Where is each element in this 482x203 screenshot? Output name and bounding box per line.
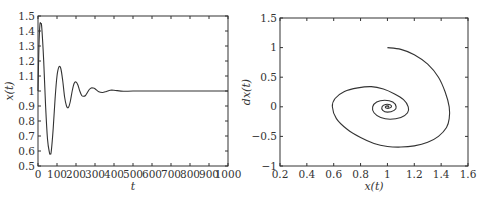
- y-tick-label: −0.5: [252, 130, 278, 142]
- y-tick-label: 0.9: [18, 100, 35, 112]
- x-tick-label: 1000: [215, 168, 242, 180]
- y-tick-label: 0.5: [260, 71, 277, 83]
- left-y-axis-label: x(t): [3, 81, 16, 100]
- y-tick-label: 0.6: [18, 145, 35, 157]
- phase-trajectory-curve: [332, 48, 449, 147]
- x-tick-label: 400: [104, 168, 124, 180]
- x-tick-label: 0.6: [325, 168, 342, 180]
- y-tick-label: 0.5: [18, 160, 35, 172]
- x-tick-label: 200: [66, 168, 86, 180]
- x-tick-label: 700: [161, 168, 181, 180]
- left-x-axis-label: t: [131, 180, 136, 193]
- y-tick-label: 1.1: [18, 70, 35, 82]
- right-x-ticks: 0.20.40.60.811.21.41.6: [272, 18, 477, 180]
- x-t-curve: [38, 23, 228, 155]
- y-tick-label: 1.5: [18, 10, 35, 22]
- x-tick-label: 800: [180, 168, 200, 180]
- y-tick-label: −1: [262, 160, 277, 172]
- y-tick-label: 1.3: [18, 40, 35, 52]
- y-tick-label: 1: [270, 41, 277, 53]
- phase-portrait-panel: 0.20.40.60.811.21.41.6 −1−0.500.511.5 x(…: [240, 12, 477, 194]
- y-tick-label: 0.7: [18, 130, 35, 142]
- y-tick-label: 1.5: [260, 12, 277, 24]
- x-tick-label: 300: [85, 168, 105, 180]
- time-series-panel: 01002003004005006007008009001000 0.50.60…: [3, 10, 241, 194]
- right-y-axis-label: dx(t): [240, 79, 253, 105]
- y-tick-label: 1: [28, 85, 35, 97]
- x-tick-label: 1: [384, 168, 391, 180]
- right-x-axis-label: x(t): [364, 180, 383, 193]
- y-tick-label: 0: [270, 100, 277, 112]
- figure: 01002003004005006007008009001000 0.50.60…: [0, 0, 482, 203]
- x-tick-label: 0.8: [352, 168, 369, 180]
- x-tick-label: 500: [123, 168, 143, 180]
- left-x-ticks: 01002003004005006007008009001000: [35, 16, 242, 180]
- x-tick-label: 600: [142, 168, 162, 180]
- x-tick-label: 100: [47, 168, 67, 180]
- x-tick-label: 1.4: [433, 168, 450, 180]
- y-tick-label: 0.8: [18, 115, 35, 127]
- right-y-ticks: −1−0.500.511.5: [252, 12, 469, 172]
- y-tick-label: 1.2: [18, 55, 35, 67]
- x-tick-label: 0: [35, 168, 42, 180]
- x-tick-label: 0.4: [299, 168, 316, 180]
- x-tick-label: 1.2: [406, 168, 423, 180]
- y-tick-label: 1.4: [18, 25, 35, 37]
- x-tick-label: 1.6: [460, 168, 477, 180]
